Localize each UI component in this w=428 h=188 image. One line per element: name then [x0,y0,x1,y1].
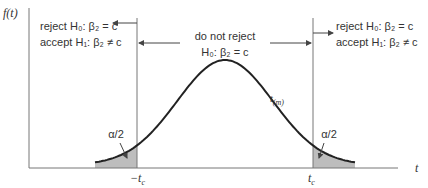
center-region-line2: H₀: β₂ = c [201,46,249,58]
right-region-line1: reject H₀: β₂ = c [336,20,414,32]
t-distribution-curve [95,60,355,162]
y-axis-label: f(t) [3,6,18,20]
right-tail-label: α/2 [321,128,337,140]
center-region-line1: do not reject [195,30,256,42]
x-axis-label: t [415,161,419,175]
hypothesis-test-diagram: f(t) t reject H₀: β₂ = c accept H₁: β₂ ≠… [0,0,428,188]
right-region-line2: accept H₁: β₂ ≠ c [336,36,418,48]
left-tail-label: α/2 [108,128,124,140]
left-critical-label: −tc [130,171,145,187]
left-region-line1: reject H₀: β₂ = c [40,20,118,32]
left-region-line2: accept H₁: β₂ ≠ c [40,36,122,48]
right-critical-label: tc [308,171,315,187]
curve-label: t(m) [270,93,284,107]
